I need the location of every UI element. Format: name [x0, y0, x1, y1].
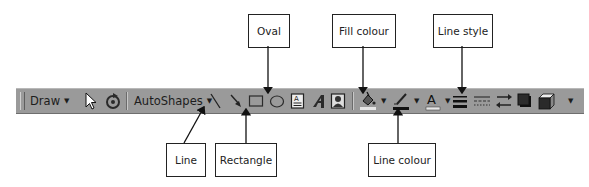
callout-arrows	[0, 0, 589, 187]
arrow-line	[184, 107, 204, 143]
